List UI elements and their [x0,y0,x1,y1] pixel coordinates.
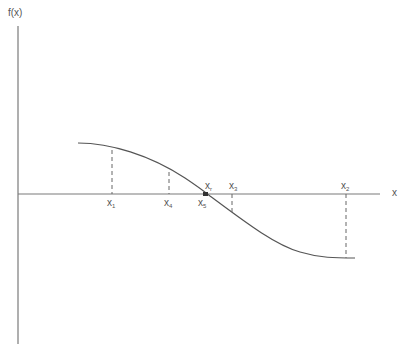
diagram-canvas [0,0,409,352]
label-x3: x3 [229,181,237,192]
label-x5: x5 [198,198,206,209]
label-xr: xr [205,181,212,192]
label-x2: x2 [341,181,349,192]
root-marker [203,192,208,196]
x-axis-label: x [392,188,397,198]
y-axis-label: f(x) [8,8,22,18]
function-curve [78,143,355,258]
label-x4: x4 [164,198,172,209]
label-x1: x1 [107,198,115,209]
